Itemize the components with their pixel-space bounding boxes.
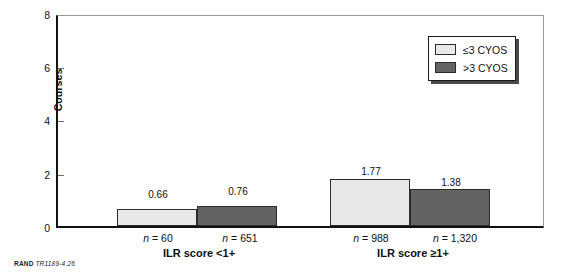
- bar-group1-series2: [197, 206, 277, 226]
- n-value: = 60: [149, 232, 173, 244]
- y-tick-label-2: 2: [36, 169, 50, 181]
- bar-value-group2-series1: 1.77: [361, 166, 380, 177]
- y-tick-label-4: 4: [36, 115, 50, 127]
- figure-footer: RAND TR1189-4.26: [14, 260, 75, 267]
- bar-value-group1-series1: 0.66: [148, 189, 167, 200]
- n-label-group1-series1: n = 60: [143, 232, 173, 244]
- bar-group2-series1: [330, 179, 410, 226]
- legend: ≤3 CYOS >3 CYOS: [428, 36, 516, 81]
- y-tick-label-8: 8: [36, 9, 50, 21]
- footer-source: RAND: [14, 260, 34, 267]
- n-label-group1-series2: n = 651: [222, 232, 257, 244]
- legend-swatch-light-icon: [435, 44, 456, 55]
- footer-figure-number: TR1189-4.26: [35, 260, 75, 267]
- y-tick-label-0: 0: [36, 222, 50, 234]
- bar-value-group1-series2: 0.76: [228, 186, 247, 197]
- n-value: = 651: [228, 232, 258, 244]
- bar-group1-series1: [117, 209, 197, 227]
- chart-figure: Courses 8 6 4 2 0 0.66 0.76 1.77 1.38 n …: [0, 0, 567, 278]
- group-label-ilr-1plus-or-above: ILR score ≥1+: [377, 247, 449, 259]
- n-label-group2-series1: n = 988: [353, 232, 388, 244]
- bar-value-group2-series2: 1.38: [441, 177, 460, 188]
- bar-group2-series2: [410, 189, 490, 226]
- n-value: = 988: [359, 232, 389, 244]
- legend-swatch-dark-icon: [435, 62, 456, 73]
- legend-item-le3-cyos: ≤3 CYOS: [435, 42, 508, 57]
- n-value: = 1,320: [439, 232, 477, 244]
- y-tick-label-6: 6: [36, 62, 50, 74]
- group-label-ilr-below-1plus: ILR score <1+: [163, 247, 235, 259]
- legend-item-gt3-cyos: >3 CYOS: [435, 60, 508, 75]
- n-label-group2-series2: n = 1,320: [433, 232, 477, 244]
- legend-label-gt3-cyos: >3 CYOS: [463, 62, 508, 74]
- legend-label-le3-cyos: ≤3 CYOS: [463, 44, 507, 56]
